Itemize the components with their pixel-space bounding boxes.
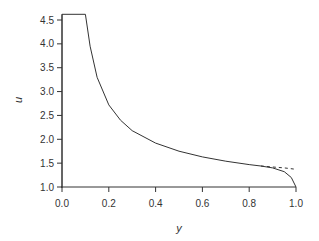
x-tick-label: 0.8 xyxy=(242,198,256,209)
y-tick-label: 3.5 xyxy=(40,62,54,73)
x-tick-label: 0.6 xyxy=(195,198,209,209)
chart: 0.00.20.40.60.81.01.01.52.02.53.03.54.04… xyxy=(0,0,319,241)
y-tick-label: 3.0 xyxy=(40,86,54,97)
x-tick-label: 0.4 xyxy=(149,198,163,209)
y-tick-label: 2.5 xyxy=(40,110,54,121)
solid-curve xyxy=(62,14,296,187)
y-tick-label: 1.5 xyxy=(40,158,54,169)
x-axis-label: y xyxy=(175,222,183,234)
x-tick-label: 1.0 xyxy=(289,198,303,209)
y-tick-label: 1.0 xyxy=(40,182,54,193)
y-tick-label: 4.0 xyxy=(40,38,54,49)
x-tick-label: 0.2 xyxy=(102,198,116,209)
plot-svg: 0.00.20.40.60.81.01.01.52.02.53.03.54.04… xyxy=(0,0,319,241)
y-axis-label: u xyxy=(12,97,24,103)
y-tick-label: 2.0 xyxy=(40,134,54,145)
y-tick-label: 4.5 xyxy=(40,15,54,26)
x-tick-label: 0.0 xyxy=(55,198,69,209)
